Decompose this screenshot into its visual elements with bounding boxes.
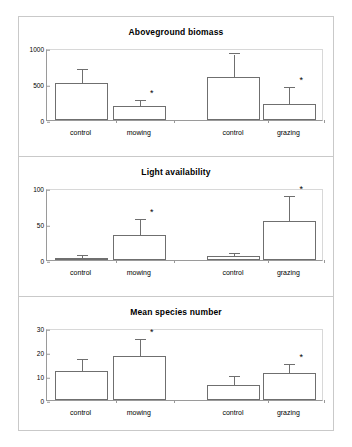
y-axis-tick-label: 100 [33,187,47,194]
error-bar [82,360,83,372]
error-bar [234,254,235,256]
error-bar-cap [77,359,88,360]
y-axis-tick-label: 0 [40,259,47,266]
plot-area: 050100** [46,189,323,261]
x-axis-label: control [222,409,243,416]
error-bar [140,101,141,106]
bar [207,77,260,120]
error-bar-cap [229,253,240,254]
x-axis-tick [324,400,325,403]
error-bar-cap [77,69,88,70]
error-bar [289,197,290,221]
y-axis-tick-label: 30 [37,327,47,334]
significance-marker: * [150,328,154,337]
error-bar [140,220,141,235]
bar [263,221,316,260]
y-axis-tick-label: 1000 [30,47,47,54]
x-axis-label: control [70,409,91,416]
bar [55,83,108,120]
significance-marker: * [150,208,154,217]
bar [113,235,166,260]
bar [207,385,260,400]
x-axis-label: mowing [127,129,151,136]
bar [263,104,316,120]
x-axis-label: control [70,129,91,136]
panel-title: Mean species number [19,307,333,317]
error-bar [82,256,83,258]
chart-panel: Aboveground biomass05001000**controlmowi… [19,17,333,157]
error-bar [234,377,235,385]
y-axis-tick-label: 500 [33,83,47,90]
y-axis-tick-label: 10 [37,375,47,382]
error-bar-cap [135,219,146,220]
error-bar [289,365,290,373]
chart-panel: Light availability050100**controlmowingc… [19,157,333,297]
x-axis-label: mowing [127,409,151,416]
x-axis-label: grazing [277,409,300,416]
y-axis-tick-label: 20 [37,351,47,358]
chart-panel: Mean species number0102030**controlmowin… [19,297,333,430]
error-bar [82,70,83,83]
x-axis-label: mowing [127,269,151,276]
x-axis-tick [116,120,117,123]
error-bar-cap [229,53,240,54]
bar [113,106,166,120]
error-bar [289,88,290,103]
significance-marker: * [300,185,304,194]
x-axis-label: grazing [277,129,300,136]
bar [113,356,166,400]
plot-area: 05001000** [46,49,323,121]
error-bar-cap [284,364,295,365]
x-axis-tick [324,120,325,123]
error-bar [234,55,235,77]
error-bar-cap [135,100,146,101]
y-axis-tick-label: 0 [40,119,47,126]
plot-area: 0102030** [46,329,323,401]
error-bar-cap [229,376,240,377]
x-axis-label: control [222,129,243,136]
y-axis-tick-label: 0 [40,399,47,406]
x-axis-tick [174,120,175,123]
error-bar-cap [77,255,88,256]
significance-marker: * [300,353,304,362]
x-axis-tick [268,260,269,263]
x-axis-tick [268,400,269,403]
bar [263,373,316,400]
panel-title: Light availability [19,167,333,177]
x-axis-tick [116,260,117,263]
error-bar-cap [284,87,295,88]
bar [55,258,108,260]
error-bar-cap [135,339,146,340]
figure-panel-group: Aboveground biomass05001000**controlmowi… [18,16,334,431]
x-axis-tick [116,400,117,403]
x-axis-label: control [70,269,91,276]
x-axis-tick [174,400,175,403]
error-bar [140,340,141,357]
significance-marker: * [150,89,154,98]
x-axis-label: grazing [277,269,300,276]
x-axis-tick [324,260,325,263]
panel-title: Aboveground biomass [19,27,333,37]
x-axis-tick [268,120,269,123]
x-axis-tick [174,260,175,263]
error-bar-cap [284,196,295,197]
x-axis-label: control [222,269,243,276]
bar [55,371,108,400]
y-axis-tick-label: 50 [37,223,47,230]
bar [207,256,260,260]
significance-marker: * [300,76,304,85]
